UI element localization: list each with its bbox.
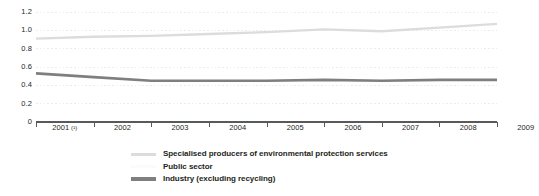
y-tick-label: 0.8 <box>0 45 32 53</box>
legend-swatch-specialised-producers <box>131 153 156 156</box>
legend-label-specialised-producers: Specialised producers of environmental p… <box>163 149 388 159</box>
y-tick-label: 0.2 <box>0 100 32 108</box>
x-tick-label-2006: 2006 <box>325 123 381 133</box>
x-axis-labels: 2001 (¹)20022003200420052006200720082009 <box>0 123 524 139</box>
x-tick-label-2005: 2005 <box>267 123 323 133</box>
legend-label-industry: Industry (excluding recycling) <box>163 174 275 184</box>
legend-label-public-sector: Public sector <box>163 162 213 172</box>
x-tick-label-2003: 2003 <box>152 123 208 133</box>
x-tick-label-2004: 2004 <box>210 123 266 133</box>
y-tick-label: 1.0 <box>0 26 32 34</box>
legend-swatch-industry <box>131 177 156 181</box>
chart-legend: Specialised producers of environmental p… <box>131 148 524 186</box>
series-line-2 <box>36 73 497 80</box>
y-axis-labels: 1.21.00.80.60.40.20 <box>0 0 32 142</box>
gridlines <box>36 12 500 104</box>
plot-svg <box>0 0 524 142</box>
legend-swatch-public-sector <box>131 165 156 168</box>
legend-item-public-sector: Public sector <box>131 161 524 174</box>
series-lines <box>36 24 497 81</box>
y-tick-label: 0.4 <box>0 81 32 89</box>
x-tick-label-2007: 2007 <box>383 123 439 133</box>
footnote-marker: (¹) <box>69 125 77 131</box>
legend-item-specialised-producers: Specialised producers of environmental p… <box>131 148 524 161</box>
x-tick-label-2008: 2008 <box>440 123 496 133</box>
legend-item-industry: Industry (excluding recycling) <box>131 173 524 186</box>
y-tick-label: 1.2 <box>0 8 32 16</box>
series-line-0 <box>36 24 497 39</box>
x-tick-label-2001: 2001 (¹) <box>37 123 93 133</box>
x-tick-label-2009: 2009 <box>498 123 539 133</box>
plot-area <box>0 0 524 142</box>
x-tick-label-2002: 2002 <box>94 123 150 133</box>
y-tick-label: 0.6 <box>0 63 32 71</box>
